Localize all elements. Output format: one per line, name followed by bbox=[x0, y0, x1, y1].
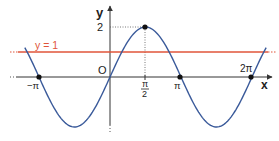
y-tick-2: 2 bbox=[97, 21, 103, 33]
tick-label-2pi: 2π bbox=[240, 63, 253, 74]
tick-label-pi: π bbox=[174, 80, 181, 91]
y-axis-label: y bbox=[96, 5, 104, 20]
point-peak bbox=[142, 24, 147, 29]
origin-label: O bbox=[98, 64, 107, 76]
point-neg-pi bbox=[36, 74, 41, 79]
tick-label-pi-half-num: π bbox=[142, 79, 148, 89]
point-pi bbox=[177, 74, 182, 79]
tick-label-neg-pi: −π bbox=[27, 80, 40, 91]
x-axis-label: x bbox=[261, 78, 268, 92]
sine-chart: y x O 2 y = 1 −π π 2 π 2π bbox=[0, 0, 279, 141]
point-2pi bbox=[248, 74, 253, 79]
hline-label: y = 1 bbox=[35, 39, 58, 51]
tick-label-pi-half-den: 2 bbox=[142, 89, 147, 99]
